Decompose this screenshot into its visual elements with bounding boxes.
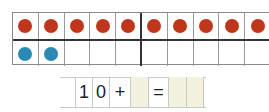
- ten-frame-cell: [194, 41, 220, 66]
- grid-line: [60, 107, 206, 108]
- operator-cell: =: [148, 77, 168, 107]
- digit-cell: 0: [92, 77, 109, 107]
- ten-frame-cell: [39, 13, 65, 39]
- ten-frame-cell: [245, 13, 269, 39]
- red-counter-dot: [18, 19, 32, 33]
- red-counter-dot: [147, 19, 161, 33]
- red-counter-dot: [225, 19, 239, 33]
- red-counter-dot: [96, 19, 110, 33]
- ten-frame-cell: [142, 13, 168, 39]
- ten-frame-cell: [90, 13, 116, 39]
- ten-frame-cell: [245, 41, 269, 66]
- ten-frame-bottom-row: [13, 39, 269, 66]
- operator-cell: +: [109, 77, 130, 107]
- answer-box[interactable]: [186, 77, 204, 107]
- ten-frame-cell: [65, 41, 91, 66]
- ten-frame-cell: [116, 41, 142, 66]
- red-counter-dot: [121, 19, 135, 33]
- blue-counter-dot: [18, 47, 32, 61]
- ten-frame-cell: [65, 13, 91, 39]
- red-counter-dot: [173, 19, 187, 33]
- digit-cell: 1: [75, 77, 92, 107]
- equation-row: 10+=: [75, 77, 204, 107]
- answer-box[interactable]: [168, 77, 186, 107]
- ten-frame-cell: [13, 13, 39, 39]
- ten-frame-cell: [13, 41, 39, 66]
- ten-frame-cell: [116, 13, 142, 39]
- ten-frame-top-row: [13, 13, 269, 39]
- red-counter-dot: [44, 19, 58, 33]
- ten-frame-cell: [168, 41, 194, 66]
- ten-frame-cell: [168, 13, 194, 39]
- ten-frame-cell: [194, 13, 220, 39]
- ten-frame-cell: [142, 41, 168, 66]
- answer-box[interactable]: [130, 77, 148, 107]
- red-counter-dot: [199, 19, 213, 33]
- ten-frame-cell: [90, 41, 116, 66]
- ten-frame-cell: [39, 41, 65, 66]
- red-counter-dot: [251, 19, 265, 33]
- blue-counter-dot: [44, 47, 58, 61]
- ten-frame-cell: [219, 41, 245, 66]
- ten-frame-cell: [219, 13, 245, 39]
- equation-grid: 10+=: [60, 77, 206, 107]
- red-counter-dot: [70, 19, 84, 33]
- ten-frame-grid: [12, 12, 269, 65]
